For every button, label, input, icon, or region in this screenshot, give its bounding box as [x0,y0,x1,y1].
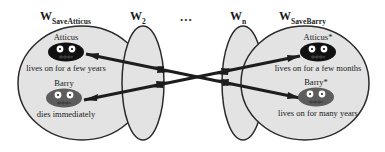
creature-barry-right [298,88,334,107]
occupant-fate-barry-right: lives on for many years [260,109,376,118]
world-label-main: W [40,9,52,23]
world-label-subscript: SaveAtticus [52,17,91,26]
creature-atticus-right [300,43,336,62]
world-label-subscript: n [242,17,246,26]
world-label-main: W [130,9,142,23]
creature-barry-left [46,89,82,108]
creature-atticus-left [48,43,84,62]
world-label-main: W [279,9,291,23]
world-label-2: W2 [130,7,146,26]
possible-worlds-diagram: WSaveAtticus W2 ... Wn WSaveBarry Atticu… [0,0,385,152]
occupant-fate-atticus-left: lives on for a few years [14,64,118,73]
world-label-subscript: 2 [142,17,146,26]
world-label-main: W [230,9,242,23]
occupant-name-atticus-left: Atticus [16,33,116,42]
occupant-fate-barry-left: dies immediately [14,110,118,119]
world-label-save-barry: WSaveBarry [279,7,326,26]
occupant-name-atticus-right: Atticus* [268,33,368,42]
occupant-fate-atticus-right: lives on for a few months [258,64,378,73]
occupant-name-barry-left: Barry [14,79,114,88]
world-label-save-atticus: WSaveAtticus [40,7,91,26]
world-label-n: Wn [230,7,246,26]
occupant-name-barry-right: Barry* [266,78,366,87]
worlds-ellipsis: ... [180,10,193,23]
world-label-subscript: SaveBarry [291,17,326,26]
